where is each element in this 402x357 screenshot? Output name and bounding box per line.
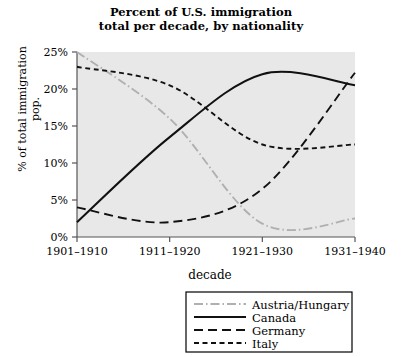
- x-axis-title: decade: [60, 268, 360, 282]
- y-axis-title: % of total immigration pop.: [16, 34, 42, 184]
- legend-label-italy: Italy: [252, 337, 279, 351]
- legend-label-germany: Germany: [252, 324, 306, 338]
- legend-label-canada: Canada: [252, 311, 296, 325]
- y-tick-label: 10%: [44, 157, 68, 170]
- y-tick-label: 0%: [51, 231, 68, 244]
- y-tick-label: 25%: [44, 46, 68, 59]
- chart-title: Percent of U.S. immigration total per de…: [0, 6, 402, 33]
- y-tick-label: 5%: [51, 194, 68, 207]
- legend-label-austria-hungary: Austria/Hungary: [251, 298, 350, 312]
- x-axis-ticks: 1901–19101911–19201921–19301931–1940: [46, 237, 386, 258]
- x-tick-label: 1911–1920: [139, 245, 201, 258]
- chart-title-line-1: Percent of U.S. immigration: [0, 6, 402, 20]
- y-axis-ticks: 0%5%10%15%20%25%: [44, 46, 77, 244]
- line-chart-plot: 0%5%10%15%20%25% 1901–19101911–19201921–…: [0, 0, 402, 290]
- y-axis-title-line-1: % of total immigration: [16, 34, 29, 184]
- y-tick-label: 15%: [44, 120, 68, 133]
- x-tick-label: 1921–1930: [232, 245, 294, 258]
- chart-legend: Austria/HungaryCanadaGermanyItaly: [0, 287, 402, 357]
- x-tick-label: 1901–1910: [46, 245, 108, 258]
- y-tick-label: 20%: [44, 83, 68, 96]
- y-axis-title-line-2: pop.: [29, 34, 42, 184]
- chart-title-line-2: total per decade, by nationality: [0, 20, 402, 34]
- x-tick-label: 1931–1940: [324, 245, 386, 258]
- chart-figure: Percent of U.S. immigration total per de…: [0, 0, 402, 357]
